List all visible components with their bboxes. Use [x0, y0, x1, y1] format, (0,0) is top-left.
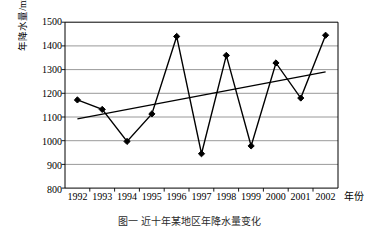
- x-tick-label-2002: 2002: [310, 191, 340, 203]
- data-point-markers: [74, 32, 328, 157]
- y-axis-ticks: [62, 22, 65, 188]
- data-point-marker: [198, 151, 204, 157]
- data-point-marker: [74, 97, 80, 103]
- data-point-marker: [248, 143, 254, 149]
- plot-frame-border: [65, 22, 338, 188]
- precipitation-data-line: [77, 35, 325, 154]
- data-point-marker: [322, 32, 328, 38]
- x-axis-title: 年份: [344, 191, 364, 203]
- data-point-marker: [223, 52, 229, 58]
- data-point-marker: [174, 33, 180, 39]
- trend-line: [77, 72, 325, 119]
- gridlines: [65, 46, 338, 164]
- x-axis-tick-labels: 1992 1993 1994 1995 1996 1997 1998 1999 …: [0, 191, 379, 205]
- figure-caption: 图一 近十年某地区年降水量变化: [0, 216, 379, 227]
- precipitation-line-chart-figure: 年降水量/mm 1500 1400 1300 1200 1100 1000 90…: [0, 0, 379, 227]
